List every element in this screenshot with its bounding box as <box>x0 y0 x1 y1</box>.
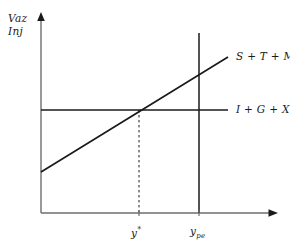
x-tick-label-ype-subscript: pe <box>196 232 205 240</box>
y-axis-label-line2: Inj <box>8 25 27 38</box>
y-axis <box>37 12 45 213</box>
x-axis-arrowhead-icon <box>269 209 279 217</box>
x-tick-label-ystar: y* <box>131 225 142 239</box>
curve-label-igx: I + G + X <box>236 103 290 115</box>
plot-canvas <box>0 0 290 251</box>
x-tick-label-ype: ype <box>190 225 205 240</box>
x-axis <box>41 209 278 217</box>
curve-label-stm: S + T + M <box>236 50 290 62</box>
y-axis-arrowhead-icon <box>37 12 45 21</box>
y-axis-label: Vaz Inj <box>8 12 27 38</box>
economics-diagram-figure: Vaz Inj S + T + M I + G + X y* ype <box>0 0 290 251</box>
y-axis-label-line1: Vaz <box>8 12 27 25</box>
x-tick-label-ystar-superscript: * <box>137 225 141 234</box>
curve-stm <box>41 57 228 172</box>
